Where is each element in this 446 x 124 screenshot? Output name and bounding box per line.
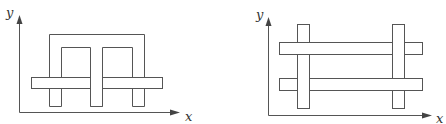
right-left-vertical-bar	[298, 25, 310, 109]
left-x-label: x	[185, 109, 193, 124]
right-y-arrow-icon	[266, 17, 272, 26]
diagram-canvas: y x y x	[0, 0, 446, 124]
right-x-arrow-icon	[422, 113, 432, 119]
left-x-arrow-icon	[170, 110, 180, 116]
left-y-arrow-icon	[17, 15, 23, 24]
right-figure: y x	[255, 7, 444, 124]
right-x-label: x	[436, 111, 444, 124]
right-bottom-bar-overlap-mask	[391, 79, 406, 90]
right-y-label: y	[255, 7, 264, 22]
right-axes: y x	[255, 7, 444, 124]
left-figure: y x	[5, 5, 193, 124]
right-right-vertical-bar	[393, 25, 405, 109]
left-y-label: y	[5, 5, 14, 20]
left-middle-leg-mask	[91, 70, 103, 107]
